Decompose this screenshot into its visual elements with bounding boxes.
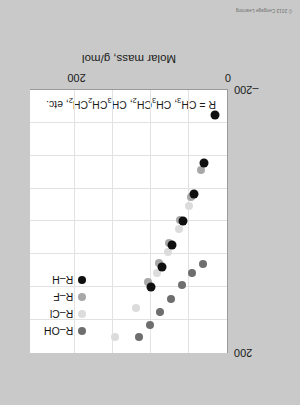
legend-marker-icon (78, 293, 86, 301)
y-tick-label: 200 (234, 347, 252, 359)
r-definition-note: R = CH3, CH3CH2, CH3CH2CH2, etc. (46, 96, 216, 111)
data-point (185, 202, 193, 210)
legend-label: R–OH (44, 325, 73, 337)
scatter-chart: Boiling point, °C Molar mass, g/mol R–OH… (16, 37, 284, 367)
data-point (111, 333, 119, 341)
x-tick-label: 0 (225, 72, 231, 84)
data-point (132, 304, 140, 312)
data-point (210, 111, 219, 120)
gridline-horizontal (30, 253, 227, 254)
data-point (200, 158, 209, 167)
copyright-credit: © 2013 Cengage Learning (236, 8, 292, 13)
gridline-vertical (188, 90, 189, 353)
legend-item-r-f[interactable]: R–F (44, 291, 86, 303)
plot-area: R–OHR–ClR–FR–H R = CH3, CH3CH2, CH3CH2CH… (30, 89, 228, 353)
data-point (175, 225, 183, 233)
gridline-horizontal (30, 155, 227, 156)
data-point (179, 216, 188, 225)
data-point (146, 321, 154, 329)
gridline-vertical (112, 90, 113, 353)
legend-marker-icon (78, 276, 86, 284)
data-point (167, 295, 175, 303)
legend-marker-icon (78, 327, 86, 335)
gridline-horizontal (30, 122, 227, 123)
data-point (178, 281, 186, 289)
legend-marker-icon (78, 310, 86, 318)
data-point (168, 241, 177, 250)
x-axis-title: Molar mass, g/mol (30, 53, 228, 65)
legend-item-r-oh[interactable]: R–OH (44, 325, 86, 337)
gridline-vertical (74, 90, 75, 353)
data-point (189, 189, 198, 198)
gridline-horizontal (30, 286, 227, 287)
gridline-vertical (150, 90, 151, 353)
data-point (156, 308, 164, 316)
data-point (188, 269, 196, 277)
x-tick-label: 200 (67, 72, 85, 84)
data-point (199, 260, 207, 268)
legend-label: R–F (53, 291, 73, 303)
legend: R–OHR–ClR–FR–H (44, 274, 86, 337)
data-point (135, 333, 143, 341)
gridline-horizontal (30, 221, 227, 222)
y-axis-title-wrap: Boiling point, °C (269, 89, 270, 353)
gridline-horizontal (30, 188, 227, 189)
legend-label: R–H (52, 274, 73, 286)
gridline-horizontal (30, 319, 227, 320)
data-point (157, 262, 166, 271)
data-point (147, 282, 156, 291)
figure-root: © 2013 Cengage Learning Boiling point, °… (0, 0, 300, 405)
legend-item-r-h[interactable]: R–H (44, 274, 86, 286)
y-tick-label: –200 (234, 84, 258, 96)
